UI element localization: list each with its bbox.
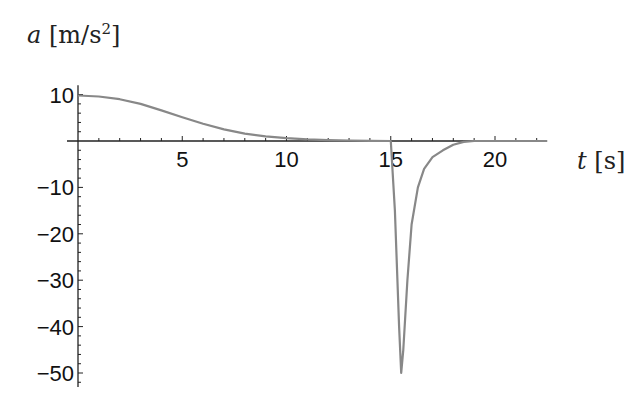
chart-plot: 510152010−10−20−30−40−50: [0, 0, 637, 408]
x-tick-label: 5: [176, 147, 188, 172]
y-tick-label: −10: [37, 175, 74, 200]
x-tick-label: 10: [274, 147, 298, 172]
x-tick-label: 20: [483, 147, 507, 172]
acceleration-curve: [78, 96, 547, 374]
y-tick-label: −30: [37, 268, 74, 293]
y-tick-label: −50: [37, 361, 74, 386]
y-tick-label: −20: [37, 222, 74, 247]
y-tick-label: 10: [50, 83, 74, 108]
y-tick-label: −40: [37, 315, 74, 340]
